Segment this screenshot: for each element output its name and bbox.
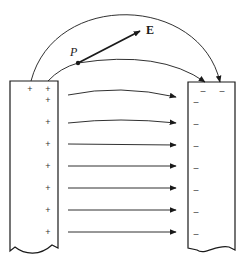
field-line-line-2: [68, 120, 176, 123]
field-line-outer-arc: [31, 15, 220, 82]
negative-charge-sign: –: [193, 185, 198, 195]
left-plate: [10, 81, 58, 253]
positive-charge-sign: +: [27, 84, 32, 94]
field-vector-e-label: E: [146, 23, 154, 37]
positive-charge-sign: +: [45, 84, 50, 94]
field-line-line-3: [68, 144, 176, 145]
negative-charge-sign: –: [219, 86, 224, 96]
field-diagram: +++++++++ ––––––––– P E: [0, 0, 248, 261]
positive-charge-sign: +: [45, 161, 50, 171]
negative-charge-sign: –: [193, 207, 198, 217]
negative-charge-sign: –: [193, 119, 198, 129]
positive-charge-sign: +: [45, 139, 50, 149]
field-vector-e-arrow: [78, 31, 140, 63]
negative-charge-sign: –: [193, 163, 198, 173]
positive-charge-sign: +: [45, 227, 50, 237]
positive-charge-sign: +: [45, 117, 50, 127]
positive-charge-sign: +: [45, 183, 50, 193]
negative-charge-sign: –: [193, 97, 198, 107]
point-p-label: P: [69, 45, 78, 59]
negative-charge-sign: –: [193, 141, 198, 151]
field-line-line-1: [68, 90, 176, 97]
positive-charge-sign: +: [45, 205, 50, 215]
negative-charge-sign: –: [193, 229, 198, 239]
positive-charge-sign: +: [45, 95, 50, 105]
negative-charge-sign: –: [200, 86, 205, 96]
field-line-arc-through-p: [48, 59, 205, 82]
